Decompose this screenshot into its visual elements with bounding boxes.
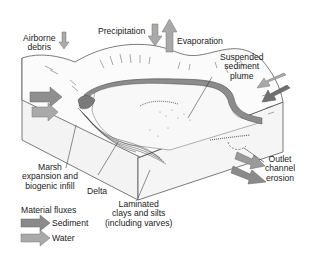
label-suspended-plume: Suspended sediment plume xyxy=(220,53,264,81)
label-line: plume xyxy=(220,72,264,81)
label-delta: Delta xyxy=(87,187,107,196)
label-line: debris xyxy=(23,43,55,52)
label-outlet: Outlet channel erosion xyxy=(265,155,295,183)
outflow-sediment-arrow xyxy=(231,166,266,184)
lake-diagram: Airborne debris Precipitation Evaporatio… xyxy=(0,0,313,258)
legend-title: Material fluxes xyxy=(21,206,76,215)
legend-water-label: Water xyxy=(52,234,75,243)
label-precipitation: Precipitation xyxy=(98,27,145,36)
legend-water-icon xyxy=(21,230,50,246)
label-line: (including varves) xyxy=(105,219,172,228)
label-laminated: Laminated clays and silts (including var… xyxy=(105,200,172,228)
airborne-debris-arrow xyxy=(59,32,69,49)
evaporation-arrow xyxy=(162,19,177,52)
label-line: erosion xyxy=(265,174,295,183)
label-airborne-debris: Airborne debris xyxy=(23,34,55,53)
precipitation-arrow xyxy=(148,24,162,46)
legend-sediment-icon xyxy=(21,215,50,231)
legend-sediment-label: Sediment xyxy=(52,219,88,228)
label-evaporation: Evaporation xyxy=(177,37,223,46)
label-marsh: Marsh expansion and biogenic infill xyxy=(22,163,78,191)
label-line: biogenic infill xyxy=(22,182,78,191)
